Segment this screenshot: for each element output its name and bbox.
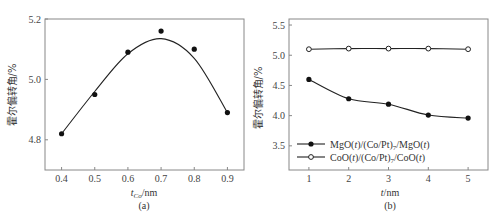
open-circle-marker-icon [309,155,314,160]
data-point [125,50,130,55]
data-point [426,112,431,117]
x-tick-label: 2 [346,173,351,184]
y-tick-label: 5.2 [29,14,42,25]
data-points-b [306,46,470,120]
panel-a: 0.40.50.60.70.80.9 4.85.05.2 tCo/nm (a) … [6,14,244,213]
x-axis-label-b: t/nm [381,187,400,198]
legend-item-mgo: MgO(t)/(Co/Pt)7/MgO(t) [297,139,430,152]
series-line-mgo [309,79,468,118]
caption-b: (b) [384,200,396,212]
x-tick-label: 0.9 [221,173,234,184]
x-tick-label: 0.4 [55,173,68,184]
y-tick-label: 4.0 [273,110,286,121]
data-point [426,46,431,51]
legend: MgO(t)/(Co/Pt)7/MgO(t) CoO(t)/(Co/Pt)7/C… [297,139,430,165]
y-axis-label-a: 霍尔偏转角/% [6,64,18,127]
x-tick-label: 0.8 [188,173,201,184]
data-point [225,110,230,115]
data-point [192,47,197,52]
x-axis-label-a: tCo/nm [131,187,158,200]
y-tick-label: 3.5 [273,140,286,151]
data-point [466,115,471,120]
fit-curve-a [62,39,228,134]
y-tick-label: 4.5 [273,80,286,91]
x-tick-label: 4 [426,173,431,184]
x-tick-label: 3 [386,173,391,184]
figure: 0.40.50.60.70.80.9 4.85.05.2 tCo/nm (a) … [0,0,499,223]
caption-a: (a) [138,200,149,212]
x-tick-label: 0.7 [155,173,168,184]
y-tick-label: 4.8 [29,134,42,145]
x-tick-label: 5 [466,173,471,184]
data-point [386,102,391,107]
filled-circle-marker-icon [308,141,313,146]
panel-b: 12345 3.54.04.55.05.5 MgO(t)/(Co/Pt)7/Mg… [252,19,488,212]
data-point [306,77,311,82]
legend-label-mgo: MgO(t)/(Co/Pt)7/MgO(t) [330,139,430,152]
legend-item-coo: CoO(t)/(Co/Pt)7/CoO(t) [297,152,425,165]
y-tick-label: 5.5 [273,20,286,31]
y-axis-label-b: 霍尔偏转角/% [252,67,264,130]
legend-label-coo: CoO(t)/(Co/Pt)7/CoO(t) [330,152,425,165]
x-tick-label: 0.6 [122,173,135,184]
y-tick-label: 5.0 [273,50,286,61]
data-point [346,46,351,51]
data-point [466,47,471,52]
plot-frame-a [45,19,244,170]
data-point [307,47,312,52]
data-point [92,92,97,97]
y-tick-label: 5.0 [29,74,42,85]
data-point [346,96,351,101]
data-points-a [59,28,230,136]
x-tick-label: 1 [306,173,311,184]
data-point [59,131,64,136]
data-point [158,28,163,33]
data-point [386,46,391,51]
x-tick-label: 0.5 [89,173,102,184]
